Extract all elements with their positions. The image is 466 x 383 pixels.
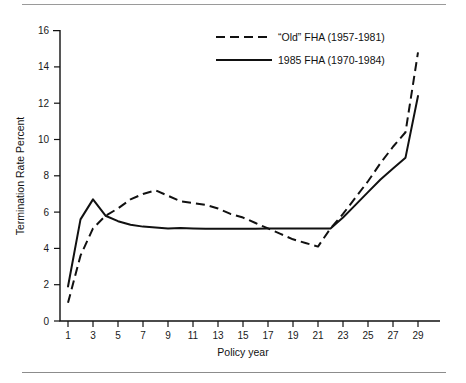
y-axis-tick-labels: 0246810121416 <box>38 25 50 326</box>
x-tick-label: 17 <box>262 330 274 341</box>
x-axis-title: Policy year <box>217 346 269 358</box>
x-tick-label: 9 <box>165 330 171 341</box>
chart-series <box>68 52 418 302</box>
y-tick-label: 0 <box>43 316 49 327</box>
x-tick-label: 29 <box>412 330 424 341</box>
series-line-1985-fha <box>68 96 418 287</box>
x-axis-ticks <box>68 321 418 327</box>
legend-label-1985-fha: 1985 FHA (1970-1984) <box>278 54 385 66</box>
x-tick-label: 21 <box>312 330 324 341</box>
y-tick-label: 10 <box>38 134 50 145</box>
figure-container: 0246810121416 1357911131517192123252729 … <box>0 0 466 383</box>
y-tick-label: 4 <box>43 243 49 254</box>
x-tick-label: 7 <box>140 330 146 341</box>
axis-lines <box>53 31 440 321</box>
legend-label-old-fha: “Old” FHA (1957-1981) <box>278 31 385 43</box>
y-tick-label: 6 <box>43 207 49 218</box>
series-line-old-fha <box>68 52 418 302</box>
y-axis-title: Termination Rate Percent <box>14 117 26 236</box>
x-tick-label: 27 <box>387 330 399 341</box>
chart-legend: “Old” FHA (1957-1981) 1985 FHA (1970-198… <box>216 31 385 66</box>
x-tick-label: 19 <box>287 330 299 341</box>
x-tick-label: 11 <box>188 330 199 341</box>
x-tick-label: 3 <box>90 330 96 341</box>
y-tick-label: 12 <box>38 98 50 109</box>
x-axis-tick-labels: 1357911131517192123252729 <box>65 330 424 341</box>
x-tick-label: 25 <box>362 330 374 341</box>
x-tick-label: 15 <box>237 330 249 341</box>
y-tick-label: 8 <box>43 170 49 181</box>
y-axis-ticks <box>54 67 60 321</box>
x-tick-label: 1 <box>65 330 71 341</box>
y-tick-label: 16 <box>38 25 50 36</box>
y-tick-label: 2 <box>43 279 49 290</box>
y-tick-label: 14 <box>38 61 50 72</box>
x-tick-label: 23 <box>337 330 349 341</box>
x-tick-label: 13 <box>212 330 224 341</box>
x-tick-label: 5 <box>115 330 121 341</box>
line-chart: 0246810121416 1357911131517192123252729 … <box>0 0 466 383</box>
